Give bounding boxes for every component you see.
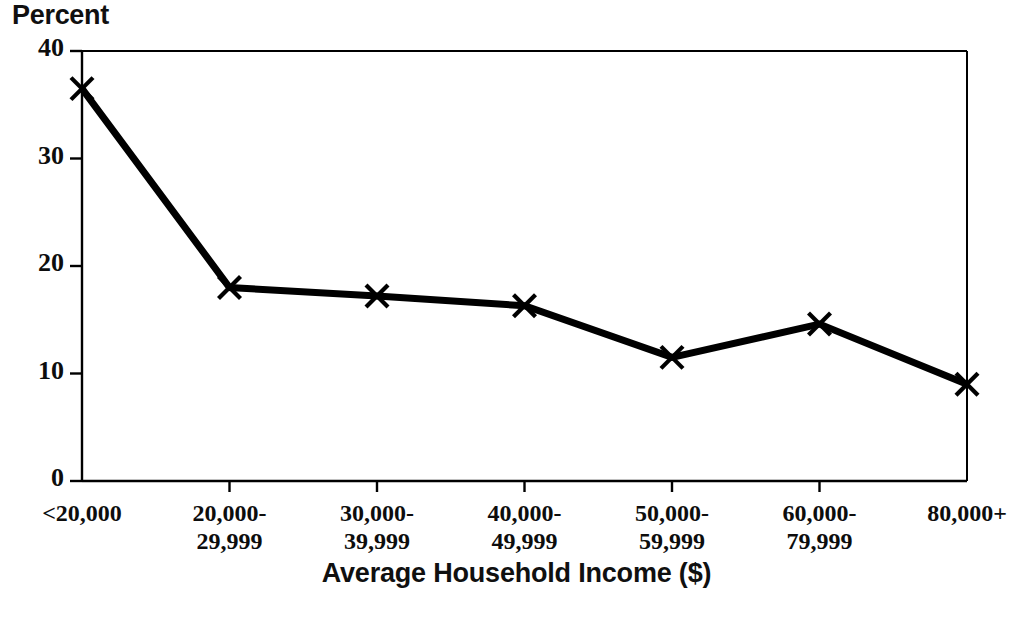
y-tick-label: 40	[4, 33, 64, 63]
y-tick-label: 30	[4, 141, 64, 171]
x-axis-ticks	[230, 481, 820, 492]
x-tick-label-line: 60,000-	[783, 499, 857, 527]
x-tick-label: 80,000+	[927, 499, 1007, 527]
chart-figure: Percent 010203040 <20,00020,000-29,99930…	[0, 0, 1033, 620]
page-scan-artifact	[300, 606, 1033, 620]
x-tick-label: 40,000-49,999	[488, 499, 562, 556]
y-tick-label: 20	[4, 248, 64, 278]
x-tick-label-line: 50,000-	[635, 499, 709, 527]
y-axis-ticks	[70, 51, 82, 481]
x-tick-label-line: 39,999	[340, 527, 414, 555]
x-tick-label-line: 40,000-	[488, 499, 562, 527]
x-tick-label-line: 29,999	[193, 527, 267, 555]
x-tick-label: 60,000-79,999	[783, 499, 857, 556]
x-tick-label-line: 59,999	[635, 527, 709, 555]
x-tick-label-line: 30,000-	[340, 499, 414, 527]
data-series-line	[82, 89, 967, 385]
x-tick-label: 30,000-39,999	[340, 499, 414, 556]
x-tick-label: 20,000-29,999	[193, 499, 267, 556]
x-tick-label-line: <20,000	[42, 499, 122, 527]
x-tick-label-line: 80,000+	[927, 499, 1007, 527]
y-tick-label: 0	[4, 463, 64, 493]
x-tick-label-line: 79,999	[783, 527, 857, 555]
x-tick-label: <20,000	[42, 499, 122, 527]
y-tick-label: 10	[4, 356, 64, 386]
x-axis-title: Average Household Income ($)	[0, 558, 1033, 589]
x-tick-label: 50,000-59,999	[635, 499, 709, 556]
data-series-markers	[71, 78, 978, 396]
x-tick-label-line: 20,000-	[193, 499, 267, 527]
x-tick-label-line: 49,999	[488, 527, 562, 555]
